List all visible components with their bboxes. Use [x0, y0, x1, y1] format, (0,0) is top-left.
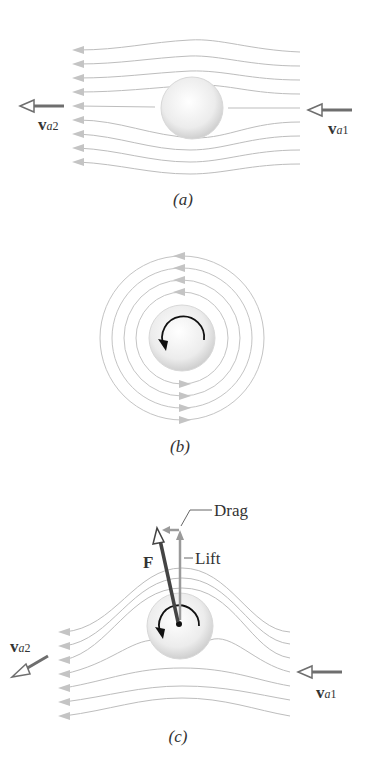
- v-a2-label-a: va2: [38, 115, 59, 134]
- panel-b: (b): [100, 252, 264, 456]
- drag-leader: [181, 510, 212, 526]
- golf-ball-b: [149, 305, 215, 371]
- stream-arrowheads-c: [58, 628, 70, 720]
- velocity-in-arrow-a: [308, 104, 352, 116]
- velocity-out-arrow-c: [12, 656, 48, 677]
- v-a1-label-c: va1: [316, 683, 337, 702]
- v-a1-label-a: va1: [328, 119, 349, 138]
- lift-label: Lift: [195, 549, 221, 568]
- drag-arrow-c: [162, 526, 179, 534]
- velocity-out-arrow-a: [20, 100, 64, 112]
- force-label: F: [143, 553, 153, 572]
- v-a2-label-c: va2: [10, 637, 31, 656]
- caption-a: (a): [173, 190, 193, 209]
- caption-c: (c): [169, 727, 188, 746]
- caption-b: (b): [170, 437, 190, 456]
- panel-c: Drag Lift F va2 va1 (c): [10, 501, 342, 746]
- panel-a: va2 va1 (a): [20, 40, 352, 209]
- golf-ball-airflow-diagram: va2 va1 (a) (b): [0, 0, 375, 768]
- golf-ball-a: [161, 77, 223, 139]
- drag-label: Drag: [214, 501, 248, 520]
- stream-arrowheads-a: [72, 46, 84, 166]
- velocity-in-arrow-c: [298, 666, 342, 678]
